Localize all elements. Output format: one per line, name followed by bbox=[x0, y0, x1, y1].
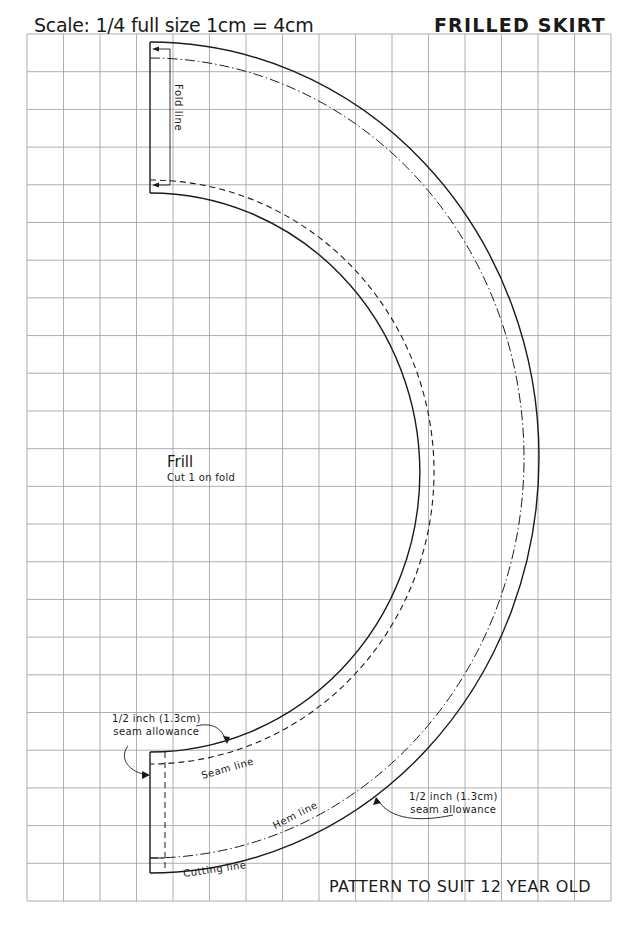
piece-name: Frill bbox=[167, 453, 193, 471]
arrowhead-icon bbox=[142, 771, 150, 779]
seam-allowance-note-left: 1/2 inch (1.3cm) seam allowance bbox=[112, 712, 201, 738]
fold-arrow-bottom-icon bbox=[152, 183, 159, 188]
pattern-canvas bbox=[0, 0, 618, 925]
arrowhead-icon bbox=[373, 797, 381, 805]
scale-label: Scale: 1/4 full size 1cm = 4cm bbox=[34, 14, 313, 36]
fold-line-bracket bbox=[158, 49, 170, 185]
footer-caption: PATTERN TO SUIT 12 YEAR OLD bbox=[329, 877, 591, 896]
fold-arrow-top-icon bbox=[152, 47, 159, 52]
fold-line-label: Fold line bbox=[173, 84, 184, 131]
note-line: 1/2 inch (1.3cm) bbox=[112, 712, 201, 725]
cutting-line-outer bbox=[150, 42, 539, 873]
note-line: 1/2 inch (1.3cm) bbox=[409, 790, 498, 803]
seam-allowance-note-right: 1/2 inch (1.3cm) seam allowance bbox=[409, 790, 498, 816]
pattern-title: FRILLED SKIRT bbox=[434, 14, 606, 36]
piece-instruction: Cut 1 on fold bbox=[167, 472, 235, 483]
hem-line bbox=[150, 58, 524, 858]
note-line: seam allowance bbox=[112, 725, 201, 738]
note-line: seam allowance bbox=[409, 803, 498, 816]
